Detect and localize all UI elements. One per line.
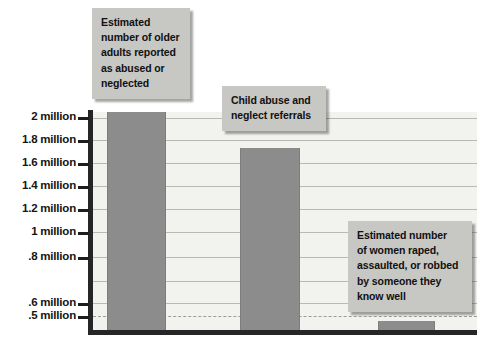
y-axis-tick-label: 1.8 million xyxy=(22,134,76,146)
y-axis-tick-label: 1 million xyxy=(31,226,76,238)
y-axis-tick-label: .6 million xyxy=(28,297,76,309)
callout-line: as abused or xyxy=(101,61,181,76)
y-axis-tick-mark xyxy=(78,163,89,166)
callout-line: neglected xyxy=(101,76,181,91)
y-axis-tick-label: 1.4 million xyxy=(22,180,76,192)
chart-canvas: 2 million1.8 million1.6 million1.4 milli… xyxy=(0,0,477,350)
callout-line: adults reported xyxy=(101,45,181,60)
x-axis-line xyxy=(88,330,477,335)
y-axis-tick-label: 1.2 million xyxy=(22,203,76,215)
callout-line: number of older xyxy=(101,30,181,45)
y-axis-tick-label: .5 million xyxy=(28,310,76,322)
y-axis-labels: 2 million1.8 million1.6 million1.4 milli… xyxy=(0,0,76,350)
callout-line: assaulted, or robbed xyxy=(357,258,463,273)
callout-line: Child abuse and xyxy=(231,93,317,108)
y-axis-tick-mark xyxy=(78,232,89,235)
y-axis-tick-mark xyxy=(78,257,89,260)
callout-child-abuse: Child abuse andneglect referrals xyxy=(222,86,326,131)
callout-line: neglect referrals xyxy=(231,108,317,123)
callout-women-assaulted: Estimated numberof women raped,assaulted… xyxy=(348,221,472,312)
bar-child-abuse xyxy=(240,148,300,331)
y-axis-tick-mark xyxy=(78,117,89,120)
y-axis-tick-mark xyxy=(78,186,89,189)
y-axis-line xyxy=(88,110,93,335)
y-axis-tick-label: .8 million xyxy=(28,251,76,263)
y-axis-tick-mark xyxy=(78,209,89,212)
y-axis-tick-mark xyxy=(78,303,89,306)
callout-older-adults: Estimatednumber of olderadults reporteda… xyxy=(92,8,190,99)
callout-line: by someone they xyxy=(357,274,463,289)
y-axis-tick-mark xyxy=(78,140,89,143)
callout-line: Estimated number xyxy=(357,228,463,243)
callout-line: Estimated xyxy=(101,15,181,30)
y-axis-tick-label: 2 million xyxy=(31,111,76,123)
y-axis-tick-mark xyxy=(78,316,89,319)
callout-line: know well xyxy=(357,289,463,304)
bar-older-adults xyxy=(107,112,166,331)
callout-line: of women raped, xyxy=(357,243,463,258)
y-axis-tick-label: 1.6 million xyxy=(22,157,76,169)
